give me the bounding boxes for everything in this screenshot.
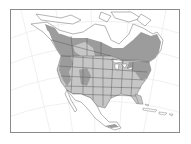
arctic-land bbox=[36, 12, 151, 26]
map-frame bbox=[10, 9, 180, 133]
range-map bbox=[11, 10, 179, 132]
caribbean-islands bbox=[143, 104, 173, 116]
